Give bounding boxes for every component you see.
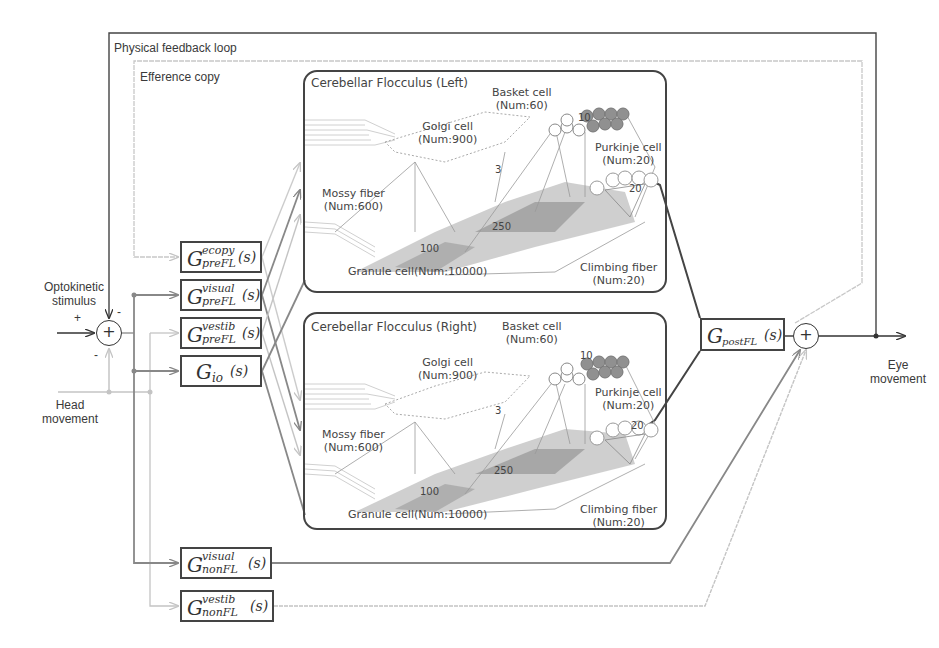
flocculus-left-title: Cerebellar Flocculus (Left) [311, 76, 468, 90]
input-summing-junction: + [96, 320, 122, 346]
flocculus-left-mossy-label: Mossy fiber (Num:600) [322, 187, 385, 213]
flocculus-right-conn-100: 100 [420, 486, 439, 497]
flocculus-right-basket-label: Basket cell (Num:60) [502, 320, 562, 346]
flocculus-right-climbing-label: Climbing fiber (Num:20) [580, 503, 657, 529]
flocculus-right-conn-10: 10 [580, 350, 593, 361]
preFL-to-flocculus-lines [262, 163, 305, 515]
output-summing-junction: + [793, 323, 819, 349]
minus-sign-head: - [94, 348, 98, 362]
flocculus-right-conn-3: 3 [495, 405, 501, 416]
block-nonFL-visual: G visual nonFL (s) [180, 547, 272, 579]
block-preFL-ecopy: G ecopy preFL (s) [180, 241, 262, 273]
minus-sign-feedback: - [117, 305, 121, 319]
flocculus-left-conn-100: 100 [420, 243, 439, 254]
flocculus-left-conn-3: 3 [495, 164, 501, 175]
block-postFL: G postFL (s) [700, 318, 785, 351]
block-io: G io (s) [180, 355, 262, 387]
flocculus-right-purkinje-label: Purkinje cell (Num:20) [595, 386, 662, 412]
head-movement-lines [58, 333, 178, 606]
flocculus-left-granule-label: Granule cell(Num:10000) [348, 265, 487, 278]
flocculus-left-panel [303, 70, 667, 293]
flocculus-right-mossy-label: Mossy fiber (Num:600) [322, 428, 385, 454]
flocculus-left-golgi-label: Golgi cell (Num:900) [418, 120, 477, 146]
flocculus-left-basket-label: Basket cell (Num:60) [492, 86, 552, 112]
flocculus-left-climbing-label: Climbing fiber (Num:20) [580, 261, 657, 287]
flocculus-right-conn-20: 20 [631, 420, 644, 431]
flocculus-right-golgi-label: Golgi cell (Num:900) [418, 356, 477, 382]
physical-feedback-loop-label: Physical feedback loop [114, 41, 237, 55]
flocculus-left-conn-250: 250 [492, 221, 511, 232]
flocculus-right-network [305, 314, 669, 532]
block-preFL-vestib: G vestib preFL (s) [180, 317, 262, 349]
efference-copy-label: Efference copy [140, 70, 220, 84]
flocculus-left-conn-20: 20 [629, 183, 642, 194]
flocculus-right-conn-250: 250 [494, 465, 513, 476]
optokinetic-stimulus-label: Optokinetic stimulus [34, 280, 114, 308]
block-preFL-visual: G visual preFL (s) [180, 279, 262, 311]
flocculus-right-panel [303, 312, 667, 530]
plus-sign: + [74, 311, 81, 325]
flocculus-left-conn-10: 10 [578, 112, 591, 123]
eye-movement-label: Eye movement [858, 358, 938, 386]
flocculus-right-granule-label: Granule cell(Num:10000) [348, 508, 487, 521]
head-movement-label: Head movement [30, 398, 110, 426]
block-nonFL-vestib: G vestib nonFL (s) [180, 590, 274, 622]
flocculus-right-title: Cerebellar Flocculus (Right) [311, 320, 477, 334]
flocculus-left-purkinje-label: Purkinje cell (Num:20) [595, 141, 662, 167]
